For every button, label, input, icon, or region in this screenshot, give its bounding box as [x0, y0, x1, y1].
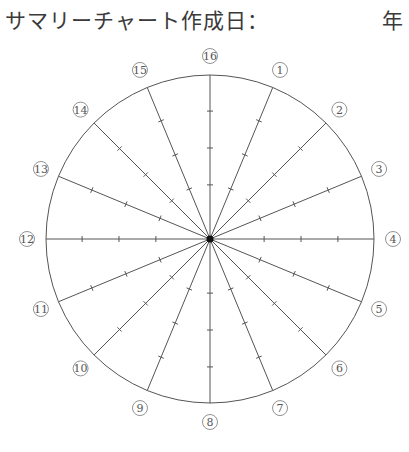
spoke-6 [210, 239, 326, 355]
spoke-label-9: 9 [136, 402, 143, 415]
spoke-label-7: 7 [277, 402, 284, 415]
spoke-label-16: 16 [203, 50, 217, 63]
spoke-label-11: 11 [34, 303, 48, 316]
spoke-label-1: 1 [277, 64, 284, 77]
spoke-10 [94, 239, 210, 355]
spoke-label-8: 8 [207, 416, 214, 429]
spoke-7 [210, 239, 273, 391]
spoke-label-5: 5 [376, 303, 383, 316]
spoke-14 [94, 123, 210, 239]
spoke-2 [210, 123, 326, 239]
spoke-13 [58, 176, 210, 239]
spoke-11 [58, 239, 210, 302]
spoke-9 [147, 239, 210, 391]
spoke-label-15: 15 [133, 64, 147, 77]
summary-radar-chart: 16123456789101112131415 [0, 0, 409, 452]
spoke-15 [147, 87, 210, 239]
spoke-label-4: 4 [390, 233, 397, 246]
spoke-3 [210, 176, 362, 239]
center-dot [207, 236, 214, 243]
spoke-1 [210, 87, 273, 239]
spoke-label-2: 2 [336, 104, 343, 117]
spoke-label-3: 3 [376, 163, 383, 176]
spoke-label-6: 6 [336, 362, 343, 375]
spoke-label-12: 12 [20, 233, 34, 246]
spoke-5 [210, 239, 362, 302]
spoke-label-14: 14 [74, 104, 88, 117]
spoke-label-13: 13 [34, 163, 48, 176]
spoke-label-10: 10 [74, 362, 88, 375]
